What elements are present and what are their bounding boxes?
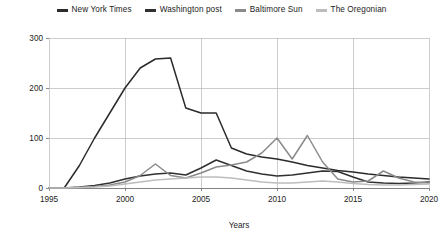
x-axis-title: Years — [229, 221, 250, 230]
x-axis-tick-labels: 199520002005201020152020 — [40, 195, 439, 204]
series-line — [49, 136, 429, 189]
x-tick-label: 1995 — [40, 195, 59, 204]
data-series — [49, 58, 429, 188]
x-tick-label: 2005 — [192, 195, 211, 204]
y-axis-tick-labels: 0100200300 — [29, 34, 43, 193]
y-tick-label: 300 — [29, 34, 43, 43]
plot-area: 0100200300 199520002005201020152020 Year… — [0, 0, 443, 239]
x-tick-label: 2010 — [268, 195, 287, 204]
x-tick-label: 2020 — [420, 195, 439, 204]
x-tick-label: 2015 — [344, 195, 363, 204]
y-tick-label: 100 — [29, 134, 43, 143]
line-chart: New York TimesWashington postBaltimore S… — [0, 0, 443, 239]
y-tick-label: 200 — [29, 84, 43, 93]
gridlines — [49, 38, 429, 188]
y-tick-label: 0 — [38, 184, 43, 193]
x-tick-label: 2000 — [116, 195, 135, 204]
